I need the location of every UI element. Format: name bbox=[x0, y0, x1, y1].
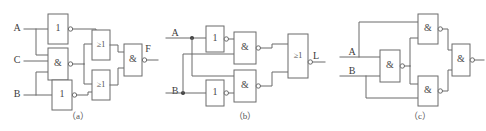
circuit-b-wire-nand1-out bbox=[261, 44, 289, 48]
circuit-c-wire-nand3-out bbox=[443, 70, 453, 91]
gate-b-not-1-symbol: 1 bbox=[213, 32, 218, 43]
gate-a-nand-1-symbol: & bbox=[54, 57, 62, 68]
caption-a: （a） bbox=[67, 111, 89, 121]
gate-a-nand-out-symbol: & bbox=[129, 53, 137, 64]
gate-b-or-out-symbol: ≥1 bbox=[294, 51, 302, 60]
gate-b-nand-1-bubble-icon bbox=[256, 46, 260, 50]
gate-a-or-2-symbol: ≥1 bbox=[97, 80, 105, 89]
gate-c-nand-1-bubble-icon bbox=[400, 64, 404, 68]
circuit-c-wire-nand1-to-bottom bbox=[410, 66, 418, 84]
gate-b-nand-1-symbol: & bbox=[241, 41, 249, 52]
gate-a-not-2-bubble-icon bbox=[72, 93, 76, 97]
circuit-c-wire-nand1-to-top bbox=[410, 38, 418, 66]
gate-b-not-2-symbol: 1 bbox=[213, 86, 218, 97]
circuit-c-wire-nand2-out bbox=[443, 29, 453, 50]
gate-b-not-1-bubble-icon bbox=[224, 37, 228, 41]
gate-b-nand-2-symbol: & bbox=[241, 79, 249, 90]
gate-c-nand-2-symbol: & bbox=[424, 22, 432, 33]
circuit-a-group: A C B F 1 & bbox=[13, 14, 158, 121]
circuit-c-input-label-A: A bbox=[348, 46, 356, 57]
circuit-b-group: A B L 1 1 & bbox=[166, 26, 325, 121]
circuit-b-wire-nand2-out bbox=[261, 72, 289, 86]
gate-b-not-2-bubble-icon bbox=[224, 91, 228, 95]
gate-c-nand-3-bubble-icon bbox=[438, 89, 442, 93]
caption-b: （b） bbox=[234, 111, 257, 121]
circuit-b-output-label-L: L bbox=[313, 50, 319, 61]
gate-a-not-2-symbol: 1 bbox=[60, 88, 65, 99]
circuit-c-input-label-B: B bbox=[349, 65, 356, 76]
circuit-a-input-label-B: B bbox=[14, 88, 21, 99]
gate-c-nand-out-symbol: & bbox=[457, 53, 465, 64]
gate-c-nand-1-symbol: & bbox=[386, 59, 394, 70]
gate-b-nand-2-bubble-icon bbox=[256, 84, 260, 88]
circuit-a-output-label-F: F bbox=[145, 43, 151, 54]
circuit-a-wire-b-branch bbox=[36, 72, 48, 95]
circuit-a-wire-nand1-to-or1 bbox=[84, 44, 92, 64]
gate-c-nand-out-bubble-icon bbox=[470, 58, 474, 62]
circuit-canvas: A C B F 1 & bbox=[0, 0, 486, 131]
gate-a-or-1-symbol: ≥1 bbox=[97, 40, 105, 49]
gate-a-nand-out-bubble-icon bbox=[142, 58, 146, 62]
gate-a-not-1-bubble-icon bbox=[68, 27, 72, 31]
circuit-a-wire-nand1-to-or2 bbox=[84, 64, 92, 84]
gate-a-not-1-symbol: 1 bbox=[56, 22, 61, 33]
circuit-b-input-label-A: A bbox=[171, 27, 179, 38]
logic-circuit-figure: A C B F 1 & bbox=[0, 0, 486, 131]
gate-a-nand-1-bubble-icon bbox=[68, 62, 72, 66]
circuit-a-input-label-C: C bbox=[14, 54, 21, 65]
circuit-b-input-label-B: B bbox=[172, 85, 179, 96]
circuit-a-wire-or2-out bbox=[110, 68, 124, 85]
circuit-a-wire-not2-out bbox=[77, 92, 92, 95]
circuit-a-wire-a-branch bbox=[36, 29, 48, 55]
gate-b-or-out-bubble-icon bbox=[308, 60, 312, 64]
caption-c: （c） bbox=[409, 111, 431, 121]
circuit-a-input-label-A: A bbox=[13, 22, 21, 33]
circuit-a-wire-or1-out bbox=[110, 45, 124, 52]
gate-c-nand-3-symbol: & bbox=[424, 84, 432, 95]
circuit-c-group: A B F & & & bbox=[340, 14, 484, 121]
gate-c-nand-2-bubble-icon bbox=[438, 27, 442, 31]
